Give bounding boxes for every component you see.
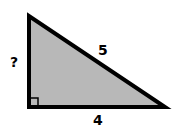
- vertical-leg-label: ?: [10, 54, 18, 70]
- right-triangle: [29, 16, 165, 107]
- hypotenuse-label: 5: [98, 42, 108, 58]
- triangle-diagram: ? 5 4: [0, 0, 176, 130]
- horizontal-leg-label: 4: [93, 112, 103, 128]
